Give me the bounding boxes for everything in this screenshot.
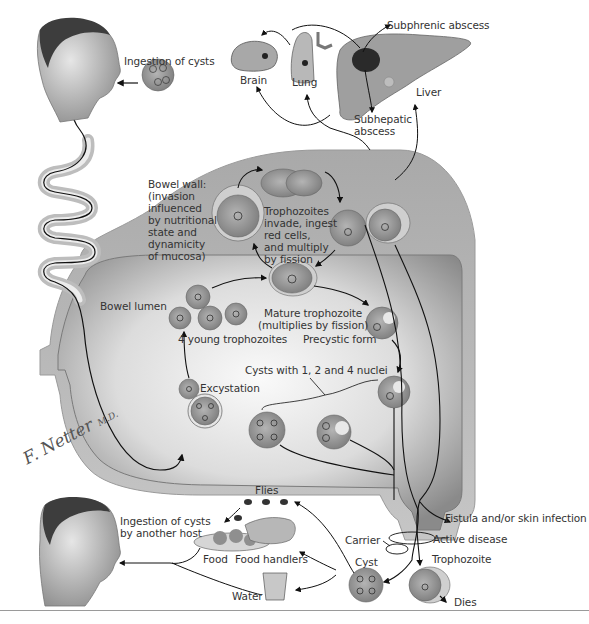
label-flies: Flies [255, 484, 278, 496]
label-active-disease: Active disease [433, 533, 507, 545]
label-ingestion-of-cysts: Ingestion of cysts [124, 55, 215, 67]
label-liver: Liver [416, 86, 441, 98]
brain-organ [231, 41, 277, 71]
label-precystic-form: Precystic form [303, 333, 376, 345]
label-subphrenic-abscess: Subphrenic abscess [387, 19, 489, 31]
label-cysts-with-nuclei: Cysts with 1, 2 and 4 nuclei [245, 364, 388, 376]
label-ingestion-another-host: Ingestion of cysts by another host [120, 515, 211, 539]
label-brain: Brain [240, 74, 267, 86]
label-mature-trophozoite: Mature trophozoite (multiplies by fissio… [258, 307, 368, 331]
label-bowel-lumen: Bowel lumen [100, 300, 167, 312]
host-head-bottom [39, 497, 120, 606]
label-trophozoite: Trophozoite [432, 553, 491, 565]
label-four-young-trophozoites: 4 young trophozoites [178, 333, 287, 345]
label-subhepatic-abscess: Subhepatic abscess [354, 113, 412, 137]
label-bowel-wall: Bowel wall: (invasion influenced by nutr… [148, 178, 217, 262]
liver-organ [337, 34, 471, 120]
label-fistula: Fistula and/or skin infection [445, 512, 587, 524]
label-food-handlers: Food handlers [235, 553, 308, 565]
label-water: Water [232, 590, 263, 602]
label-carrier: Carrier [345, 534, 380, 546]
label-cyst: Cyst [355, 556, 378, 568]
bottom-divider [0, 610, 589, 611]
food-handler-hand [245, 518, 295, 544]
water-glass [263, 573, 287, 600]
label-excystation: Excystation [200, 382, 260, 394]
label-trophozoites-invade: Trophozoites invade, ingest red cells, a… [264, 205, 337, 265]
host-head-top [37, 18, 120, 122]
label-lung: Lung [292, 76, 317, 88]
label-food: Food [203, 553, 228, 565]
label-dies: Dies [454, 596, 477, 608]
